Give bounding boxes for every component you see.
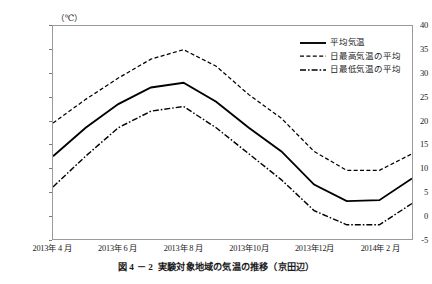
legend-line-swatch	[300, 52, 326, 60]
x-axis-tick-label: 2014年 2 月	[361, 244, 400, 253]
x-axis-tick-label: 2013年12月	[295, 244, 334, 253]
legend-item-label: 日最低気温の平均	[330, 65, 400, 74]
y-axis-tick-mark	[49, 240, 52, 241]
legend: 平均気温日最高気温の平均日最低気温の平均	[300, 38, 400, 74]
legend-line-swatch	[300, 66, 326, 74]
data-series-line	[53, 83, 412, 201]
legend-item: 日最低気温の平均	[300, 65, 400, 74]
legend-item: 平均気温	[300, 38, 400, 47]
x-axis-tick-label: 2013年 4 月	[32, 244, 71, 253]
x-axis-tick-label: 2013年10月	[229, 244, 268, 253]
legend-item: 日最高気温の平均	[300, 52, 400, 61]
y-axis-unit-label: （℃）	[56, 11, 83, 23]
figure-number: 図 4 － 2	[118, 262, 153, 272]
figure-caption: 図 4 － 2実験対象地域の気温の推移（京田辺）	[0, 262, 432, 273]
figure-container: （℃） 4035302520151050-5 2013年 4 月2013年 6 …	[0, 0, 432, 284]
legend-line-swatch	[300, 39, 326, 47]
figure-title: 実験対象地域の気温の推移（京田辺）	[158, 262, 314, 272]
legend-item-label: 日最高気温の平均	[330, 52, 400, 61]
x-axis-tick-label: 2013年 6 月	[98, 244, 137, 253]
data-series-line	[53, 106, 412, 224]
legend-item-label: 平均気温	[330, 38, 365, 47]
x-axis-tick-label: 2013年 8 月	[164, 244, 203, 253]
